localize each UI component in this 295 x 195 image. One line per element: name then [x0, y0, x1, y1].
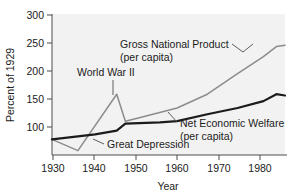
y-tick-label-150: 150	[26, 93, 44, 105]
plot-background	[52, 14, 285, 155]
y-tick-label-250: 250	[26, 37, 44, 49]
x-tick-label-1930: 1930	[41, 162, 65, 174]
y-tick-label-200: 200	[26, 65, 44, 77]
line-chart: 100 150 200 250 300 1930 1940 1950 1960 …	[0, 0, 295, 195]
x-tick-label-1960: 1960	[165, 162, 189, 174]
x-axis-title: Year	[157, 180, 179, 192]
x-tick-label-1970: 1970	[207, 162, 231, 174]
y-axis-tick-labels: 100 150 200 250 300	[26, 9, 44, 133]
annotation-great-depression: Great Depression	[93, 138, 189, 150]
y-tick-label-100: 100	[26, 121, 44, 133]
annotation-gnp-line2: (per capita)	[120, 51, 173, 63]
y-axis-ticks	[47, 15, 52, 127]
x-tick-label-1950: 1950	[124, 162, 148, 174]
x-tick-label-1980: 1980	[248, 162, 272, 174]
annotation-wwii-label: World War II	[77, 66, 135, 78]
x-tick-label-1940: 1940	[82, 162, 106, 174]
chart-container: 100 150 200 250 300 1930 1940 1950 1960 …	[0, 0, 295, 195]
x-axis-ticks	[53, 155, 260, 160]
y-axis-title: Percent of 1929	[4, 48, 16, 122]
annotation-gnp-line1: Gross National Product	[120, 38, 229, 50]
y-tick-label-300: 300	[26, 9, 44, 21]
x-axis-tick-labels: 1930 1940 1950 1960 1970 1980	[41, 162, 272, 174]
annotation-new-line1: Net Economic Welfare	[180, 117, 284, 129]
annotation-depression-label: Great Depression	[107, 138, 189, 150]
